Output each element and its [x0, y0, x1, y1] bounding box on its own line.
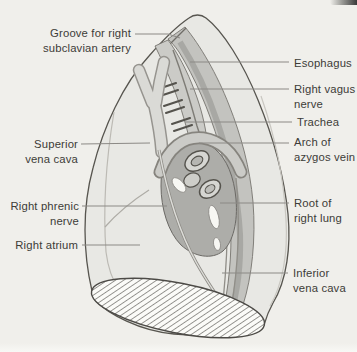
label-azygos-arch-line1: Arch of	[294, 135, 355, 150]
label-right-phrenic: Right phrenic nerve	[10, 199, 79, 229]
label-esophagus-line1: Esophagus	[294, 56, 352, 71]
label-root-right-lung-line1: Root of	[294, 196, 342, 211]
label-right-phrenic-line2: nerve	[10, 214, 79, 229]
label-root-right-lung: Root of right lung	[294, 196, 342, 226]
label-azygos-arch: Arch of azygos vein	[294, 135, 355, 165]
label-trachea: Trachea	[297, 115, 339, 130]
scan-corner-artifact	[330, 0, 357, 5]
label-right-phrenic-line1: Right phrenic	[10, 199, 79, 214]
label-right-vagus-line1: Right vagus	[294, 82, 355, 97]
page-edge-shading	[0, 343, 357, 352]
label-esophagus: Esophagus	[294, 56, 352, 71]
label-right-atrium: Right atrium	[15, 238, 78, 253]
label-groove-subclavian-line2: subclavian artery	[43, 41, 131, 56]
label-azygos-arch-line2: azygos vein	[294, 150, 355, 165]
label-superior-vena-cava: Superior vena cava	[25, 137, 78, 167]
label-superior-vena-cava-line2: vena cava	[25, 152, 78, 167]
label-root-right-lung-line2: right lung	[294, 211, 342, 226]
label-trachea-line1: Trachea	[297, 115, 339, 130]
label-inferior-vena-cava: Inferior vena cava	[293, 266, 346, 296]
label-inferior-vena-cava-line2: vena cava	[293, 281, 346, 296]
label-superior-vena-cava-line1: Superior	[25, 137, 78, 152]
label-groove-subclavian-line1: Groove for right	[43, 26, 131, 41]
scanned-page: Groove for right subclavian artery Esoph…	[0, 0, 357, 352]
label-right-vagus: Right vagus nerve	[294, 82, 355, 112]
label-groove-subclavian: Groove for right subclavian artery	[43, 26, 131, 56]
label-right-vagus-line2: nerve	[294, 97, 355, 112]
label-right-atrium-line1: Right atrium	[15, 238, 78, 253]
label-inferior-vena-cava-line1: Inferior	[293, 266, 346, 281]
